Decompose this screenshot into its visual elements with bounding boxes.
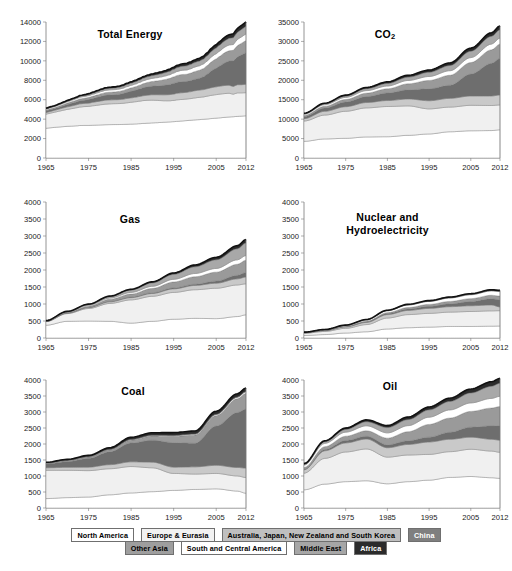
- y-tick-label: 500: [28, 488, 41, 497]
- y-tick-label: 500: [286, 317, 299, 326]
- y-tick-label: 1000: [282, 472, 299, 481]
- x-tick-label: 1995: [421, 163, 438, 172]
- legend-chip-australia-japan-new-zealand-and-south-korea[interactable]: Australia, Japan, New Zealand and South …: [222, 528, 401, 542]
- title-text-coal: Coal: [121, 385, 145, 397]
- y-tick-label: 500: [286, 488, 299, 497]
- legend-chip-middle-east[interactable]: Middle East: [294, 541, 347, 555]
- legend-chip-south-and-central-america[interactable]: South and Central America: [181, 541, 288, 555]
- y-tick-label: 3500: [24, 392, 41, 401]
- y-tick-label: 0: [295, 334, 299, 343]
- x-tick-label: 1985: [123, 343, 140, 352]
- x-tick-label: 1965: [296, 343, 313, 352]
- x-tick-label: 1975: [337, 343, 354, 352]
- y-tick-label: 2000: [24, 266, 41, 275]
- x-tick-label: 1985: [123, 163, 140, 172]
- legend-chip-europe-eurasia[interactable]: Europe & Eurasia: [141, 528, 215, 542]
- x-tick-label: 1995: [165, 343, 182, 352]
- y-tick-label: 1500: [24, 456, 41, 465]
- y-tick-label: 4000: [24, 115, 41, 124]
- y-tick-label: 0: [37, 504, 41, 513]
- y-tick-label: 3500: [282, 392, 299, 401]
- y-tick-label: 12000: [20, 37, 41, 46]
- x-tick-label: 2012: [238, 343, 255, 352]
- x-tick-label: 1975: [337, 163, 354, 172]
- y-tick-label: 3000: [282, 232, 299, 241]
- legend-chip-africa[interactable]: Africa: [354, 541, 387, 555]
- y-tick-label: 0: [37, 334, 41, 343]
- y-tick-label: 4000: [282, 198, 299, 207]
- y-tick-label: 3000: [282, 408, 299, 417]
- panel-title-co2: CO2: [330, 28, 440, 43]
- title-text-nuclear-hydro: Nuclear and Hydroelectricity: [346, 211, 429, 236]
- y-tick-label: 1000: [24, 300, 41, 309]
- y-tick-label: 1500: [24, 283, 41, 292]
- y-tick-label: 2000: [24, 134, 41, 143]
- y-tick-label: 5000: [282, 134, 299, 143]
- legend-row-1: North AmericaEurope & EurasiaAustralia, …: [0, 528, 512, 542]
- x-tick-label: 1995: [421, 513, 438, 522]
- x-tick-label: 1965: [38, 163, 55, 172]
- x-tick-label: 2005: [208, 513, 225, 522]
- title-text-oil: Oil: [383, 380, 398, 392]
- x-tick-label: 2012: [492, 163, 509, 172]
- x-tick-label: 1965: [296, 513, 313, 522]
- y-tick-label: 3500: [282, 215, 299, 224]
- x-tick-label: 1975: [337, 513, 354, 522]
- x-tick-label: 1965: [296, 163, 313, 172]
- y-tick-label: 2500: [282, 424, 299, 433]
- y-tick-label: 20000: [278, 76, 299, 85]
- x-tick-label: 2012: [492, 513, 509, 522]
- x-tick-label: 2012: [238, 513, 255, 522]
- y-tick-label: 25000: [278, 57, 299, 66]
- y-tick-label: 4000: [282, 376, 299, 385]
- figure-root: 0200040006000800010000120001400019651975…: [0, 0, 512, 571]
- y-tick-label: 0: [295, 154, 299, 163]
- panel-title-nuclear-hydro: Nuclear and Hydroelectricity: [325, 211, 450, 237]
- title-text-co2: CO2: [375, 28, 396, 40]
- x-tick-label: 2012: [492, 343, 509, 352]
- x-tick-label: 1985: [123, 513, 140, 522]
- y-tick-label: 10000: [278, 115, 299, 124]
- y-tick-label: 0: [295, 504, 299, 513]
- y-tick-label: 1500: [282, 456, 299, 465]
- x-tick-label: 2005: [208, 343, 225, 352]
- x-tick-label: 1985: [379, 343, 396, 352]
- y-tick-label: 3000: [24, 232, 41, 241]
- x-tick-label: 2012: [238, 163, 255, 172]
- legend-chip-china[interactable]: China: [408, 528, 440, 542]
- x-tick-label: 2005: [462, 513, 479, 522]
- y-tick-label: 1000: [24, 472, 41, 481]
- x-tick-label: 1975: [80, 513, 97, 522]
- y-tick-label: 6000: [24, 95, 41, 104]
- panel-title-oil: Oil: [340, 380, 440, 392]
- legend-chip-other-asia[interactable]: Other Asia: [125, 541, 174, 555]
- x-tick-label: 1995: [421, 343, 438, 352]
- y-tick-label: 500: [28, 317, 41, 326]
- y-tick-label: 2500: [24, 249, 41, 258]
- y-tick-label: 3500: [24, 215, 41, 224]
- y-tick-label: 2000: [282, 266, 299, 275]
- title-text-total-energy: Total Energy: [97, 28, 162, 40]
- y-tick-label: 2500: [282, 249, 299, 258]
- y-tick-label: 8000: [24, 76, 41, 85]
- x-tick-label: 1975: [80, 343, 97, 352]
- y-tick-label: 3000: [24, 408, 41, 417]
- x-tick-label: 2005: [462, 343, 479, 352]
- panel-title-coal: Coal: [78, 385, 188, 397]
- x-tick-label: 1975: [80, 163, 97, 172]
- y-tick-label: 15000: [278, 95, 299, 104]
- x-tick-label: 1965: [38, 513, 55, 522]
- x-tick-label: 1965: [38, 343, 55, 352]
- x-tick-label: 2005: [462, 163, 479, 172]
- panel-title-gas: Gas: [75, 213, 185, 225]
- y-tick-label: 10000: [20, 57, 41, 66]
- x-tick-label: 1995: [165, 513, 182, 522]
- legend-chip-north-america[interactable]: North America: [71, 528, 134, 542]
- legend-row-2: Other AsiaSouth and Central AmericaMiddl…: [0, 541, 512, 555]
- y-tick-label: 14000: [20, 18, 41, 27]
- x-tick-label: 1985: [379, 513, 396, 522]
- y-tick-label: 1500: [282, 283, 299, 292]
- y-tick-label: 2000: [282, 440, 299, 449]
- panel-title-total-energy: Total Energy: [70, 28, 190, 40]
- title-text-gas: Gas: [120, 213, 140, 225]
